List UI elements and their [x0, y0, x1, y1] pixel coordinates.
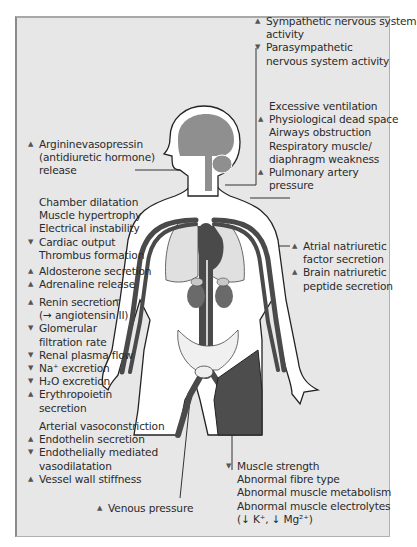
- increase-arrow-icon: ▲: [28, 473, 38, 486]
- label-row: ▲Sympathetic nervous system: [255, 15, 417, 28]
- label-row: ▼Renal plasma flow: [28, 349, 133, 362]
- label-row: vasodilatation: [28, 460, 165, 473]
- label-row: ▲Brain natriuretic: [292, 266, 393, 279]
- increase-arrow-icon: ▲: [258, 113, 268, 126]
- decrease-arrow-icon: ▼: [226, 460, 236, 473]
- label-row: ▲Venous pressure: [97, 502, 193, 515]
- increase-arrow-icon: ▲: [292, 240, 302, 253]
- label-row: ▲Aldosterone secretion: [28, 265, 151, 278]
- increase-arrow-icon: ▲: [28, 433, 38, 446]
- label-row: ▲Atrial natriuretic: [292, 240, 393, 253]
- label-row: (antidiuretic hormone): [28, 151, 155, 164]
- increase-arrow-icon: ▲: [255, 15, 265, 28]
- label-row: ▲Physiological dead space: [258, 113, 398, 126]
- label-row: ▼H₂O excretion: [28, 375, 133, 388]
- label-natriuretic: ▲Atrial natriuretic factor secretion ▲Br…: [292, 240, 393, 293]
- decrease-arrow-icon: ▼: [28, 322, 38, 335]
- label-row: ▼Na⁺ excretion: [28, 362, 133, 375]
- label-row: ▲Pulmonary artery: [258, 166, 398, 179]
- decrease-arrow-icon: ▼: [28, 236, 38, 249]
- label-row: ▲Renin secretion: [28, 296, 133, 309]
- spinal-cord: [205, 156, 212, 191]
- increase-arrow-icon: ▲: [28, 388, 38, 401]
- label-row: ▼Cardiac output: [28, 236, 144, 249]
- label-row: Arterial vasoconstriction: [28, 420, 165, 433]
- label-row: release: [28, 164, 155, 177]
- label-adrenal: ▲Aldosterone secretion ▲Adrenaline relea…: [28, 265, 151, 291]
- decrease-arrow-icon: ▼: [28, 349, 38, 362]
- label-row: activity: [255, 28, 417, 41]
- label-row: diaphragm weakness: [258, 153, 398, 166]
- label-row: (↓ K⁺, ↓ Mg²⁺): [226, 513, 391, 526]
- label-row: Abnormal muscle electrolytes: [226, 500, 391, 513]
- label-muscle: ▼Muscle strength Abnormal fibre type Abn…: [226, 460, 391, 526]
- label-row: ▲Vessel wall stiffness: [28, 473, 165, 486]
- label-row: ▼Muscle strength: [226, 460, 391, 473]
- bladder: [195, 366, 213, 378]
- label-row: ▲Adrenaline release: [28, 278, 151, 291]
- label-row: Abnormal fibre type: [226, 473, 391, 486]
- label-row: Electrical instability: [28, 222, 144, 235]
- decrease-arrow-icon: ▼: [28, 375, 38, 388]
- label-row: ▲Argininevasopressin: [28, 138, 155, 151]
- label-row: factor secretion: [292, 253, 393, 266]
- label-row: Excessive ventilation: [258, 100, 398, 113]
- increase-arrow-icon: ▲: [28, 138, 38, 151]
- label-row: ▲Endothelin secretion: [28, 433, 165, 446]
- label-pituitary: ▲Argininevasopressin (antidiuretic hormo…: [28, 138, 155, 178]
- increase-arrow-icon: ▲: [97, 502, 107, 515]
- label-row: ▲Erythropoietin: [28, 388, 133, 401]
- label-kidney: ▲Renin secretion (→ angiotensin II) ▼Glo…: [28, 296, 133, 415]
- label-row: ▼Endothelially mediated: [28, 446, 165, 459]
- label-row: Respiratory muscle/: [258, 140, 398, 153]
- label-row: Airways obstruction: [258, 126, 398, 139]
- label-row: Chamber dilatation: [28, 196, 144, 209]
- label-row: pressure: [258, 179, 398, 192]
- label-lungs: Excessive ventilation ▲Physiological dea…: [258, 100, 398, 192]
- increase-arrow-icon: ▲: [28, 265, 38, 278]
- increase-arrow-icon: ▲: [28, 296, 38, 309]
- increase-arrow-icon: ▲: [28, 278, 38, 291]
- label-arteries: Arterial vasoconstriction ▲Endothelin se…: [28, 420, 165, 486]
- label-row: peptide secretion: [292, 280, 393, 293]
- label-row: Thrombus formation: [28, 249, 144, 262]
- label-row: ▼Parasympathetic: [255, 41, 417, 54]
- cerebellum: [212, 155, 232, 173]
- increase-arrow-icon: ▲: [292, 266, 302, 279]
- label-row: Muscle hypertrophy: [28, 209, 144, 222]
- label-row: ▼Glomerular: [28, 322, 133, 335]
- increase-arrow-icon: ▲: [258, 166, 268, 179]
- label-veins: ▲Venous pressure: [97, 502, 193, 515]
- label-row: filtration rate: [28, 336, 133, 349]
- label-heart: Chamber dilatation Muscle hypertrophy El…: [28, 196, 144, 262]
- decrease-arrow-icon: ▼: [28, 446, 38, 459]
- label-row: Abnormal muscle metabolism: [226, 486, 391, 499]
- decrease-arrow-icon: ▼: [255, 41, 265, 54]
- label-nervous-system: ▲Sympathetic nervous system activity ▼Pa…: [255, 15, 417, 68]
- label-row: secretion: [28, 402, 133, 415]
- label-row: (→ angiotensin II): [28, 309, 133, 322]
- decrease-arrow-icon: ▼: [28, 362, 38, 375]
- label-row: nervous system activity: [255, 55, 417, 68]
